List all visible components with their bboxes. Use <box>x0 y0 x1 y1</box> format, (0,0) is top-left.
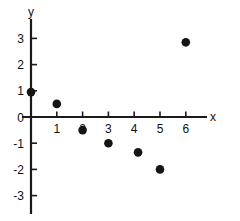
y-axis-tick-labels: 3210-1-2-3 <box>13 32 24 203</box>
x-tick-label: 3 <box>105 122 112 136</box>
axes-group <box>22 19 207 214</box>
y-tick-label: -2 <box>13 163 24 177</box>
y-axis-label: y <box>28 5 34 19</box>
y-tick-label: 2 <box>17 58 24 72</box>
data-point <box>182 38 191 47</box>
x-tick-label: 4 <box>131 122 138 136</box>
y-tick-label: 3 <box>17 32 24 46</box>
y-tick-label: -3 <box>13 189 24 203</box>
y-tick-label: -1 <box>13 137 24 151</box>
x-axis-label: x <box>210 110 216 124</box>
y-tick-label: 1 <box>17 84 24 98</box>
x-tick-label: 1 <box>53 122 60 136</box>
x-axis-tick-labels: 123456 <box>53 122 189 136</box>
plot-canvas: 123456 3210-1-2-3 x y <box>0 0 240 221</box>
scatter-plot: 123456 3210-1-2-3 x y <box>0 0 240 221</box>
data-point <box>104 139 113 148</box>
data-point <box>134 148 143 157</box>
x-tick-label: 5 <box>157 122 164 136</box>
data-point <box>78 126 87 135</box>
data-point <box>27 88 36 97</box>
data-point <box>156 165 165 174</box>
data-points-group <box>27 38 190 174</box>
y-tick-label: 0 <box>17 111 24 125</box>
x-tick-label: 6 <box>182 122 189 136</box>
data-point <box>53 100 62 109</box>
